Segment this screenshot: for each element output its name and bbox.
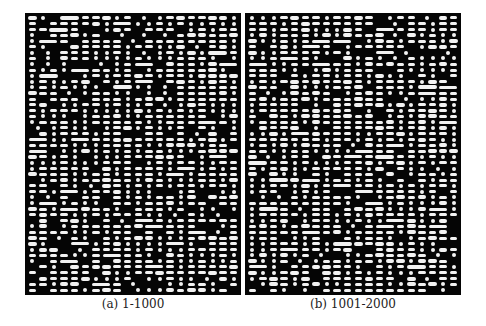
pattern-mark xyxy=(124,213,132,216)
pattern-mark xyxy=(92,225,100,228)
pattern-mark xyxy=(249,63,267,66)
pattern-mark xyxy=(52,80,56,84)
pattern-mark xyxy=(354,85,363,89)
pattern-mark xyxy=(81,277,90,281)
pattern-mark xyxy=(49,28,68,32)
pattern-mark xyxy=(280,213,288,216)
pattern-mark xyxy=(124,144,132,147)
pattern-mark xyxy=(420,97,424,101)
pattern-mark xyxy=(232,16,236,20)
pattern-mark xyxy=(82,167,90,170)
pattern-mark xyxy=(39,86,47,89)
pattern-mark xyxy=(189,138,193,142)
pattern-mark xyxy=(450,98,458,101)
pattern-mark xyxy=(431,74,435,78)
pattern-mark xyxy=(344,289,352,292)
pattern-mark xyxy=(250,242,254,246)
pattern-mark xyxy=(301,143,310,147)
pattern-mark xyxy=(156,109,164,112)
pattern-mark xyxy=(113,248,121,251)
pattern-mark xyxy=(102,16,111,20)
pattern-mark xyxy=(71,57,79,60)
pattern-mark xyxy=(302,109,310,112)
pattern-mark xyxy=(28,207,37,211)
pattern-mark xyxy=(325,85,329,89)
pattern-mark xyxy=(365,260,373,263)
pattern-mark xyxy=(397,202,405,205)
pattern-mark xyxy=(39,40,57,43)
pattern-mark xyxy=(126,195,130,199)
pattern-mark xyxy=(166,69,174,72)
pattern-mark xyxy=(365,62,374,66)
pattern-mark xyxy=(355,219,363,222)
pattern-mark xyxy=(291,196,299,199)
pattern-mark xyxy=(39,265,47,268)
pattern-mark xyxy=(450,190,458,193)
pattern-mark xyxy=(113,179,121,182)
pattern-mark xyxy=(142,33,146,37)
pattern-mark xyxy=(168,236,172,240)
pattern-mark xyxy=(39,74,58,78)
pattern-mark xyxy=(346,219,350,223)
pattern-mark xyxy=(293,68,297,72)
pattern-mark xyxy=(209,45,217,48)
pattern-mark xyxy=(177,69,185,72)
pattern-mark xyxy=(158,242,162,246)
pattern-mark xyxy=(282,288,286,292)
pattern-mark xyxy=(344,98,352,101)
pattern-mark xyxy=(420,45,424,49)
pattern-mark xyxy=(436,167,440,171)
pattern-mark xyxy=(219,34,227,37)
pattern-mark xyxy=(126,91,130,95)
pattern-mark xyxy=(365,121,373,124)
pattern-mark xyxy=(375,207,384,211)
pattern-mark xyxy=(156,138,164,141)
pattern-mark xyxy=(124,260,132,263)
pattern-mark xyxy=(249,92,257,95)
pattern-mark xyxy=(302,63,310,66)
pattern-mark xyxy=(50,213,58,216)
pattern-mark xyxy=(177,138,185,141)
pattern-mark xyxy=(261,248,265,252)
pattern-mark xyxy=(168,109,172,113)
pattern-mark xyxy=(36,126,40,130)
pattern-mark xyxy=(335,213,339,217)
pattern-mark xyxy=(367,167,371,171)
pattern-mark xyxy=(135,219,153,222)
pattern-mark xyxy=(323,98,331,101)
pattern-mark xyxy=(60,277,68,280)
pattern-mark xyxy=(145,265,163,268)
pattern-mark xyxy=(135,213,143,216)
pattern-mark xyxy=(376,150,384,153)
pattern-mark xyxy=(452,126,456,130)
pattern-mark xyxy=(30,224,34,228)
pattern-mark xyxy=(166,260,174,263)
pattern-mark xyxy=(136,201,140,205)
pattern-mark xyxy=(147,143,151,147)
pattern-mark xyxy=(92,196,100,199)
pattern-mark xyxy=(386,138,394,141)
pattern-mark xyxy=(408,155,416,158)
pattern-mark xyxy=(431,201,435,205)
pattern-mark xyxy=(446,51,450,55)
pattern-mark xyxy=(302,254,310,257)
pattern-mark xyxy=(418,271,426,274)
pattern-mark xyxy=(50,173,58,176)
pattern-mark xyxy=(450,28,458,31)
pattern-mark xyxy=(346,51,350,55)
pattern-mark xyxy=(261,16,265,20)
pattern-mark xyxy=(298,259,302,263)
pattern-mark xyxy=(325,242,329,246)
pattern-mark xyxy=(248,259,257,263)
pattern-mark xyxy=(189,109,193,113)
pattern-mark xyxy=(124,225,132,228)
pattern-mark xyxy=(375,253,384,257)
pattern-mark xyxy=(355,34,363,37)
pattern-mark xyxy=(198,138,206,141)
pattern-mark xyxy=(209,98,217,101)
pattern-mark xyxy=(39,277,48,281)
pattern-mark xyxy=(71,28,79,31)
pattern-mark xyxy=(105,155,109,159)
pattern-mark xyxy=(439,237,447,240)
pattern-mark xyxy=(62,224,66,228)
